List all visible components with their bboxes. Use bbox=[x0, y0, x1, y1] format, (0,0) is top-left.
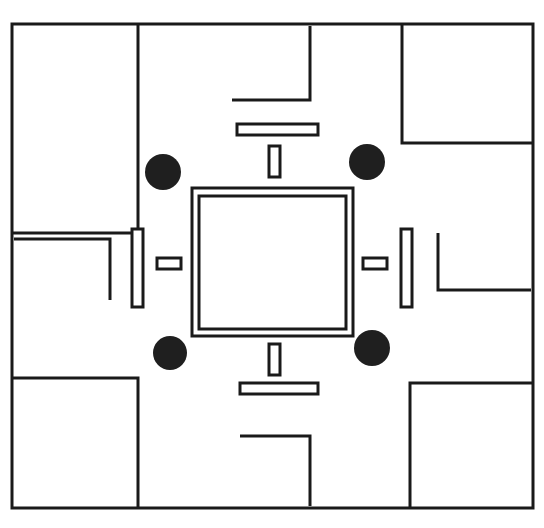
drawing-background bbox=[0, 0, 544, 528]
slot-bottom-vertical-stub bbox=[269, 344, 280, 375]
slot-right-horizontal-stub bbox=[363, 258, 387, 269]
via-bottom-left bbox=[153, 336, 187, 370]
slot-left-horizontal-stub bbox=[157, 258, 181, 269]
via-bottom-right bbox=[354, 330, 390, 366]
line-drawing-svg bbox=[0, 0, 544, 528]
slot-top-horizontal-long bbox=[237, 124, 318, 135]
via-top-right bbox=[349, 144, 385, 180]
slot-left-vertical-long bbox=[132, 229, 143, 307]
slot-right-vertical-long bbox=[401, 229, 412, 307]
via-top-left bbox=[145, 154, 181, 190]
slot-bottom-horizontal-long bbox=[240, 383, 318, 394]
figure-canvas bbox=[0, 0, 544, 528]
slot-top-vertical-stub bbox=[269, 146, 280, 177]
